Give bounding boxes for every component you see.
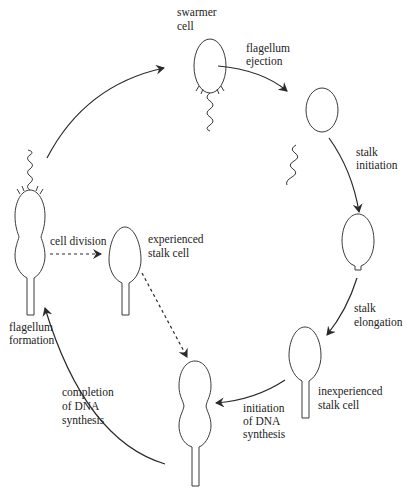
dna-completion-label-2: of DNA	[62, 400, 100, 412]
flagellum-ejection-label-2: ejection	[246, 55, 283, 68]
inexperienced-label-2: stalk cell	[318, 399, 359, 411]
stalk-initiated-cell	[342, 214, 374, 270]
dna-completion-label-1: completion	[62, 386, 114, 399]
experienced-label-1: experienced	[148, 233, 204, 246]
swarmer-label-2: cell	[177, 20, 194, 32]
dna-initiation-label-2: of DNA	[243, 415, 281, 427]
predivisional-cell-bottom	[179, 361, 211, 486]
flagellum-formation-label-1: flagellum	[9, 321, 53, 334]
swarmer-label-1: swarmer	[177, 6, 217, 18]
dna-initiation-label-1: initiation	[243, 402, 285, 414]
predivisional-cell-left	[15, 150, 45, 315]
dna-initiation-label-3: synthesis	[243, 428, 286, 441]
inexperienced-stalk-cell	[289, 327, 321, 418]
stalk-initiation-label-2: initiation	[356, 159, 398, 171]
ejected-flagellum-cell	[287, 88, 338, 185]
cell-division-label: cell division	[50, 235, 107, 247]
arrow-stalk-elongation	[327, 278, 357, 335]
stalk-elongation-label-2: elongation	[354, 316, 403, 329]
flagellum-ejection-label-1: flagellum	[246, 42, 290, 55]
flagellum-icon	[28, 150, 33, 190]
arrow-experienced-to-predivisional	[142, 273, 187, 357]
stalk-initiation-label-1: stalk	[356, 146, 378, 158]
experienced-label-2: stalk cell	[148, 247, 189, 259]
experienced-stalk-cell	[109, 227, 141, 315]
flagellum-formation-label-2: formation	[9, 334, 55, 346]
inexperienced-label-1: inexperienced	[318, 385, 383, 398]
stalk-elongation-label-1: stalk	[354, 302, 376, 314]
swarmer-cell	[194, 39, 226, 131]
flagellum-icon	[207, 93, 213, 131]
arrow-to-swarmer	[47, 68, 164, 158]
arrow-flagellum-ejection	[218, 66, 287, 91]
arrow-stalk-initiation	[329, 138, 359, 212]
cell-cycle-diagram: swarmer cell flagellum ejection stalk in…	[0, 0, 407, 496]
detached-flagellum-icon	[287, 145, 298, 185]
dna-completion-label-3: synthesis	[62, 414, 105, 427]
arrow-dna-initiation	[216, 380, 285, 403]
